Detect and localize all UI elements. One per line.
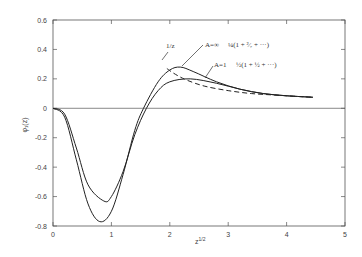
x-tick-label: 4 xyxy=(285,231,289,238)
y-tick-label: -0.2 xyxy=(35,134,47,141)
x-tick-label: 3 xyxy=(226,231,230,238)
annotation-dashed-1-over-z: 1/z xyxy=(166,42,175,50)
plot-frame xyxy=(53,20,345,226)
series-line-1-z xyxy=(167,69,313,98)
x-tick-label: 2 xyxy=(168,231,172,238)
series-line-a- xyxy=(53,67,313,222)
annotation-a-infinity-series: ¼(1 + ²⁄₇ + ···) xyxy=(228,41,270,49)
series-line-a-1 xyxy=(53,79,313,202)
x-tick-label: 1 xyxy=(109,231,113,238)
y-tick-label: -0.4 xyxy=(35,164,47,171)
y-tick-label: 0.4 xyxy=(37,46,47,53)
y-tick-label: 0.6 xyxy=(37,17,47,24)
x-tick-label: 5 xyxy=(343,231,347,238)
annotation-leader-dashed xyxy=(162,52,168,60)
x-tick-label: 0 xyxy=(51,231,55,238)
y-tick-label: -0.6 xyxy=(35,193,47,200)
annotation-leader-a-one xyxy=(205,66,213,78)
y-tick-label: -0.8 xyxy=(35,223,47,230)
annotation-a-infinity: A=∞ xyxy=(205,41,219,49)
chart-canvas: 0123450.60.40.20-0.2-0.4-0.6-0.8 1/z A=∞… xyxy=(0,0,362,257)
y-tick-label: 0 xyxy=(43,105,47,112)
annotation-a-one: A=1 xyxy=(214,61,227,69)
axes: 0123450.60.40.20-0.2-0.4-0.6-0.8 xyxy=(35,17,347,239)
y-tick-label: 0.2 xyxy=(37,75,47,82)
x-axis-label: z1/2 xyxy=(195,236,206,245)
annotation-a-one-series: ½(1 + ½ + ···) xyxy=(236,61,277,69)
annotations: 1/z A=∞ ¼(1 + ²⁄₇ + ···) A=1 ½(1 + ½ + ·… xyxy=(162,41,277,78)
series-group xyxy=(53,67,313,222)
y-axis-label: φ₁(z) xyxy=(21,117,29,132)
annotation-leader-a-infinity xyxy=(182,45,203,66)
